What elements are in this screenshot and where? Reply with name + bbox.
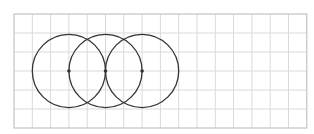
center-point-middle bbox=[104, 69, 108, 73]
grid-diagram bbox=[0, 0, 314, 134]
grid-lines bbox=[14, 14, 307, 128]
diagram-canvas bbox=[0, 0, 314, 134]
center-point-left bbox=[67, 69, 71, 73]
center-point-right bbox=[140, 69, 144, 73]
